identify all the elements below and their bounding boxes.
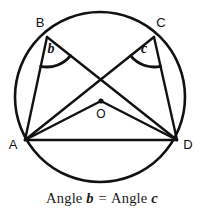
vertex-label-D: D [183, 137, 192, 152]
angle-label-b: b [48, 41, 55, 56]
centre-label-O: O [96, 107, 105, 121]
angle-arc-c [131, 56, 161, 67]
vertex-label-B: B [36, 15, 45, 30]
circumscribed-circle [15, 12, 185, 182]
figure-caption: Angle b = Angle c [0, 190, 204, 207]
radius-OA [25, 101, 101, 140]
caption-prefix-two: Angle [111, 190, 147, 206]
caption-angle-b: b [86, 190, 93, 206]
centre-point-dot [98, 98, 103, 103]
caption-prefix-one: Angle [46, 190, 82, 206]
vertex-label-A: A [9, 137, 18, 152]
radius-OD [101, 101, 177, 140]
angle-label-c: c [141, 41, 148, 56]
circle-geometry-diagram: A B C D O b c [0, 0, 204, 219]
caption-equals: = [98, 190, 108, 206]
angle-arc-b [41, 56, 71, 67]
geometry-figure: A B C D O b c Angle b = Angle c [0, 0, 204, 219]
vertex-label-C: C [156, 15, 165, 30]
caption-angle-c: c [151, 190, 158, 206]
